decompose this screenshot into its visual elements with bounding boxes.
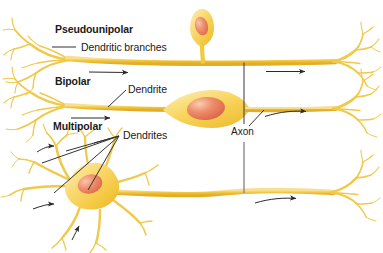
pseudounipolar-axon-terminals [333,22,381,90]
multipolar-axon-terminals [331,150,380,221]
pseudounipolar-flow-arrow-left [89,72,128,73]
label-pseudounipolar: Pseudounipolar [55,24,133,35]
pseudounipolar-soma-stalk [202,46,203,62]
multipolar-flow-arrow-axon [255,198,296,203]
dendrite-leader [108,90,126,107]
multipolar-flow-arrow-lower-left [33,204,54,209]
multipolar-flow-arrow-upper-left [37,146,54,152]
bipolar-axon-terminals [333,69,381,137]
label-dendritic-branches: Dendritic branches [81,42,167,53]
label-bipolar: Bipolar [55,76,90,87]
label-axon: Axon [231,127,254,137]
label-dendrites: Dendrites [123,130,167,141]
multipolar-axon-shaft [112,191,333,195]
multipolar-flow-arrow-bottom [72,226,79,240]
bipolar-axon-shaft [247,109,335,110]
label-multipolar: Multipolar [53,121,102,132]
label-dendrite: Dendrite [128,84,167,95]
bipolar-dendrite-process [67,106,168,110]
neuron-types-figure: Pseudounipolar Dendritic branches Bipola… [0,0,383,253]
axon-leader-to-bipolar [249,110,264,126]
neuron-multipolar [1,124,380,253]
